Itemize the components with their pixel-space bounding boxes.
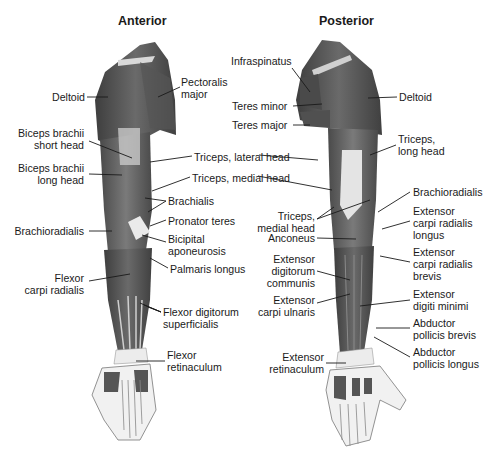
muscle-label: Deltoid [399, 91, 439, 103]
muscle-label: Bicipital aponeurosis [168, 233, 238, 257]
muscle-label: Extensor carpi ulnaris [250, 294, 315, 318]
muscle-label: Triceps, medial head [192, 172, 312, 184]
muscle-label: Triceps, medial head [253, 210, 315, 234]
muscle-label: Extensor carpi radialis longus [413, 205, 493, 241]
muscle-label: Pronator teres [168, 215, 248, 227]
muscle-label: Abductor pollicis brevis [413, 317, 493, 341]
muscle-label: Brachialis [168, 195, 228, 207]
muscle-label: Abductor pollicis longus [413, 346, 498, 370]
muscle-label: Triceps, long head [398, 133, 458, 157]
muscle-label: Extensor retinaculum [266, 351, 324, 375]
muscle-label: Anconeus [253, 232, 315, 244]
muscle-label: Teres minor [232, 100, 296, 112]
muscle-label: Teres major [232, 119, 296, 131]
muscle-label: Infraspinatus [231, 55, 301, 67]
muscle-label: Extensor carpi radialis brevis [413, 246, 493, 282]
muscle-label: Extensor digiti minimi [413, 288, 493, 312]
muscle-label: Triceps, lateral head [194, 151, 314, 163]
muscle-label: Flexor retinaculum [167, 349, 237, 373]
muscle-label: Flexor carpi radialis [6, 272, 84, 296]
muscle-label: Deltoid [47, 91, 85, 103]
muscle-label: Brachioradialis [6, 225, 84, 237]
muscle-label: Biceps brachii long head [6, 162, 84, 186]
muscle-label: Pectoralis major [181, 76, 241, 100]
muscle-label: Flexor digitorum superficialis [163, 306, 263, 330]
muscle-label: Palmaris longus [170, 263, 260, 275]
muscle-label: Brachioradialis [413, 186, 495, 198]
muscle-label: Extensor digitorum communis [253, 253, 315, 289]
muscle-label: Biceps brachii short head [6, 127, 84, 151]
